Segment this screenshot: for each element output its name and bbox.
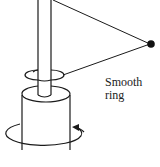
arrowhead-icon bbox=[72, 124, 79, 131]
rotation-arrow-icon bbox=[6, 124, 84, 145]
string bbox=[53, 0, 150, 75]
smooth-ring-label-line2: ring bbox=[105, 89, 142, 102]
pendulum-ball bbox=[147, 40, 155, 48]
vertical-rod bbox=[38, 0, 51, 97]
smooth-ring-label: Smooth ring bbox=[105, 76, 142, 102]
smooth-ring bbox=[25, 70, 64, 81]
base-cylinder bbox=[22, 86, 70, 150]
